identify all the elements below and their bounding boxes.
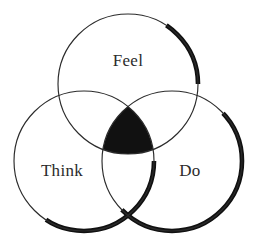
venn-diagram-container: Feel Think Do	[0, 0, 257, 252]
label-feel: Feel	[113, 51, 143, 70]
venn-diagram-svg: Feel Think Do	[0, 0, 257, 252]
label-think: Think	[41, 161, 83, 180]
label-do: Do	[179, 161, 200, 180]
